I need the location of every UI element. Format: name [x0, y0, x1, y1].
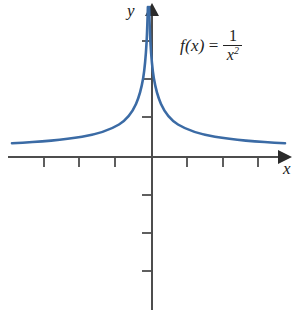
graph-figure: y x f(x) = 1 x2 [0, 0, 298, 318]
denominator-base: x [227, 46, 234, 63]
function-plot [0, 0, 298, 318]
fraction: 1 x2 [223, 28, 242, 63]
fraction-numerator: 1 [226, 28, 240, 45]
fraction-denominator: x2 [224, 46, 242, 63]
function-annotation: f(x) = 1 x2 [180, 28, 242, 63]
x-axis-label: x [283, 160, 291, 177]
denominator-exponent: 2 [234, 45, 239, 56]
curve-branch-left [12, 7, 148, 143]
function-lhs: f(x) [180, 37, 205, 54]
y-axis-label: y [127, 2, 135, 19]
equals-sign: = [209, 37, 219, 54]
